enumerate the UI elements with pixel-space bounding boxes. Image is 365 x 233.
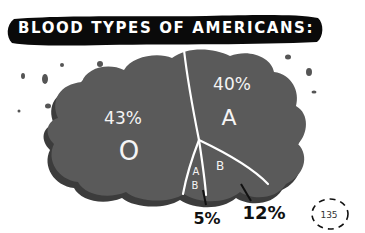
callout-label-B: 12% (242, 202, 285, 223)
slice-label-AB-category-b: B (192, 180, 199, 191)
slice-label-AB-category-a: A (193, 166, 200, 177)
dot (45, 104, 51, 109)
slice-label-B-category: B (216, 159, 224, 173)
dot (312, 91, 317, 94)
slice-label-O-percent: 43% (104, 108, 142, 128)
slice-label-O-category: O (119, 136, 139, 166)
dot (18, 110, 21, 113)
dot (21, 73, 25, 79)
dot (97, 61, 103, 67)
dot (285, 55, 291, 60)
cloud-body (48, 50, 306, 202)
page-number: 135 (320, 210, 337, 220)
dot (60, 63, 64, 67)
slice-label-A-category: A (221, 105, 236, 130)
dot (42, 74, 48, 84)
dot (306, 68, 312, 76)
cloud-pie-chart: 43% O 40% A B A B 5% 12% 135 (0, 0, 365, 233)
callout-label-AB: 5% (193, 209, 220, 228)
slice-label-A-percent: 40% (213, 74, 251, 94)
